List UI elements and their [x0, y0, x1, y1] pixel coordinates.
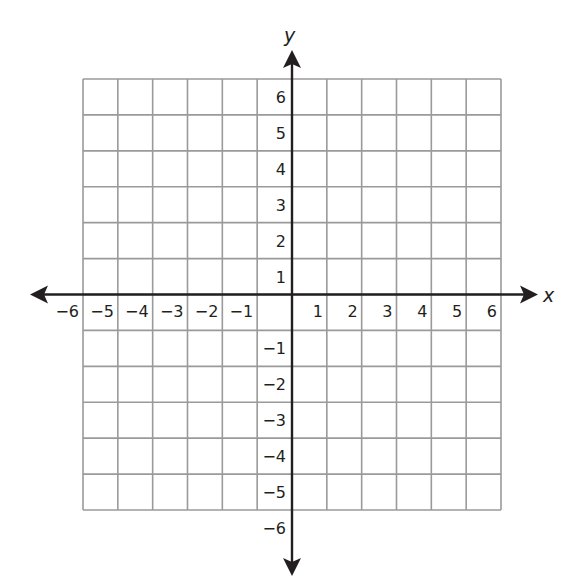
x-tick-label: 1	[313, 302, 323, 321]
y-tick-label: 4	[276, 160, 286, 179]
y-tick-label: 1	[276, 268, 286, 287]
x-tick-label: 4	[417, 302, 427, 321]
x-tick-label: 6	[487, 302, 497, 321]
y-tick-label: 5	[276, 124, 286, 143]
y-tick-label: −4	[262, 447, 286, 466]
y-tick-label: 6	[276, 88, 286, 107]
x-tick-label: 2	[347, 302, 357, 321]
x-tick-label: 3	[382, 302, 392, 321]
y-tick-label: 3	[276, 196, 286, 215]
coordinate-plane: −6−5−4−3−2−1123456 654321−1−2−3−4−5−6 x …	[0, 0, 575, 585]
y-tick-label: −1	[262, 339, 286, 358]
y-tick-label: −3	[262, 411, 286, 430]
y-axis-label: y	[283, 24, 296, 46]
x-tick-label: −4	[125, 302, 149, 321]
x-tick-label: −3	[160, 302, 184, 321]
y-tick-label: −6	[262, 519, 286, 538]
x-axis-label: x	[542, 284, 555, 306]
x-tick-label: −5	[90, 302, 114, 321]
x-tick-label: −1	[230, 302, 254, 321]
y-tick-label: −2	[262, 375, 286, 394]
x-tick-label: −6	[55, 302, 79, 321]
y-tick-label: −5	[262, 483, 286, 502]
x-tick-label: −2	[195, 302, 219, 321]
x-tick-label: 5	[452, 302, 462, 321]
y-tick-labels: 654321−1−2−3−4−5−6	[262, 88, 286, 538]
y-tick-label: 2	[276, 232, 286, 251]
